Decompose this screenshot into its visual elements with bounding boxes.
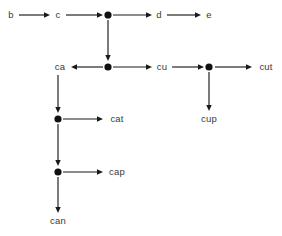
node-label-cat[interactable]: cat	[110, 114, 123, 124]
arrow-head-icon	[105, 55, 110, 61]
branch-node-dot[interactable]	[205, 63, 212, 70]
arrow-head-icon	[246, 64, 252, 69]
edges-group	[19, 12, 252, 213]
node-label-cu[interactable]: cu	[157, 62, 167, 72]
node-label-cup[interactable]: cup	[201, 114, 217, 124]
arrow-head-icon	[198, 64, 204, 69]
arrow-head-icon	[146, 64, 152, 69]
node-label-can[interactable]: can	[50, 216, 66, 226]
arrow-head-icon	[55, 207, 60, 213]
arrow-head-icon	[195, 12, 201, 17]
branch-dots-group	[54, 11, 212, 175]
arrow-head-icon	[55, 160, 60, 166]
node-label-cap[interactable]: cap	[109, 167, 125, 177]
branch-node-dot[interactable]	[54, 168, 61, 175]
arrow-head-icon	[97, 116, 103, 121]
node-label-b[interactable]: b	[8, 10, 13, 20]
node-label-ca[interactable]: ca	[55, 62, 65, 72]
branch-node-dot[interactable]	[104, 11, 111, 18]
arrow-head-icon	[71, 64, 77, 69]
arrow-head-icon	[44, 12, 50, 17]
node-label-e[interactable]: e	[206, 10, 211, 20]
branch-node-dot[interactable]	[104, 63, 111, 70]
arrow-head-icon	[146, 12, 152, 17]
arrow-head-icon	[97, 12, 103, 17]
graph-edges-layer	[0, 0, 282, 236]
node-label-c[interactable]: c	[56, 10, 61, 20]
trie-diagram-canvas: bcdecacucutcupcatcapcan	[0, 0, 282, 236]
arrow-head-icon	[55, 107, 60, 113]
arrow-head-icon	[97, 169, 103, 174]
node-label-cut[interactable]: cut	[259, 62, 272, 72]
arrow-head-icon	[206, 105, 211, 111]
node-label-d[interactable]: d	[156, 10, 161, 20]
branch-node-dot[interactable]	[54, 115, 61, 122]
